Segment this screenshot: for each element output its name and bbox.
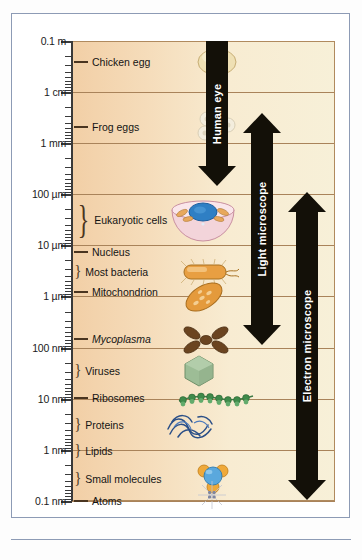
- scale-item: }Viruses: [74, 362, 120, 379]
- range-arrow-label: Human eye: [211, 83, 223, 144]
- minor-tick: [65, 209, 72, 210]
- scale-item-label: Atoms: [92, 495, 122, 507]
- minor-tick: [65, 391, 72, 392]
- minor-tick: [65, 237, 72, 238]
- range-arrow-label: Light microscope: [256, 182, 268, 277]
- leader-dash: [74, 126, 88, 128]
- scale-tick-label: 1 cm: [44, 86, 66, 98]
- scale-tick-label: 0.1 nm: [35, 495, 66, 507]
- leader-dash: [74, 291, 88, 293]
- leader-dash: [74, 61, 88, 63]
- minor-tick: [65, 218, 72, 219]
- scale-tick-label: 0.1 m: [41, 35, 66, 47]
- minor-tick: [65, 138, 72, 139]
- minor-tick: [65, 442, 72, 443]
- eukaryotic-cell-illustration: [170, 198, 236, 246]
- scale-item-label: Most bacteria: [85, 265, 148, 277]
- minor-tick: [65, 174, 72, 175]
- scale-item-label: Ribosomes: [92, 392, 145, 404]
- scale-item: Mitochondrion: [74, 286, 158, 298]
- minor-tick: [65, 72, 72, 73]
- minor-tick: [65, 87, 72, 88]
- mitochondrion-illustration: [180, 279, 228, 315]
- minor-tick: [65, 141, 72, 142]
- scale-tick-label: 100 nm: [32, 342, 66, 354]
- scale-tick-label: 10 µm: [38, 239, 66, 251]
- range-brace-tall: }: [78, 200, 90, 240]
- minor-tick: [65, 281, 72, 282]
- minor-tick: [65, 321, 72, 322]
- minor-tick: [65, 336, 72, 337]
- minor-tick: [65, 493, 72, 494]
- minor-tick: [65, 414, 72, 415]
- minor-tick: [65, 388, 72, 389]
- minor-tick: [65, 394, 72, 395]
- minor-tick: [65, 186, 72, 187]
- scale-item: Nucleus: [74, 246, 130, 258]
- scale-item-label: Small molecules: [85, 472, 161, 484]
- virus-illustration: [182, 354, 216, 388]
- minor-tick: [65, 474, 72, 475]
- minor-tick: [65, 430, 72, 431]
- scale-item-label: Mitochondrion: [92, 286, 158, 298]
- range-brace: }: [75, 362, 82, 379]
- minor-tick: [65, 327, 72, 328]
- minor-tick: [65, 486, 72, 487]
- minor-tick: [65, 128, 72, 129]
- scale-tick-label: 1 µm: [43, 290, 66, 302]
- scale-item: }Eukaryotic cells: [74, 200, 167, 240]
- arrow-head-up: [288, 192, 326, 212]
- minor-tick: [65, 340, 72, 341]
- minor-tick: [65, 234, 72, 235]
- minor-tick: [65, 465, 72, 466]
- scale-item-label: Lipids: [85, 444, 112, 456]
- scale-item-label: Nucleus: [92, 246, 130, 258]
- minor-tick: [65, 56, 72, 57]
- arrow-head-down: [288, 480, 326, 500]
- minor-tick: [65, 332, 72, 333]
- minor-tick: [65, 107, 72, 108]
- minor-tick: [65, 158, 72, 159]
- scale-item: }Small molecules: [74, 470, 162, 487]
- scale-item: }Lipids: [74, 442, 113, 459]
- minor-tick: [65, 260, 72, 261]
- scale-tick-label: 1 nm: [43, 444, 66, 456]
- minor-tick: [65, 363, 72, 364]
- minor-tick: [65, 123, 72, 124]
- minor-tick: [65, 230, 72, 231]
- range-brace: }: [75, 470, 82, 487]
- range-arrow: Electron microscope: [288, 192, 326, 500]
- scale-item: }Most bacteria: [74, 263, 148, 280]
- range-brace: }: [75, 442, 82, 459]
- minor-tick: [65, 285, 72, 286]
- ribosomes-illustration: [176, 388, 256, 410]
- minor-tick: [65, 189, 72, 190]
- scale-item: Atoms: [74, 495, 122, 507]
- minor-tick: [65, 90, 72, 91]
- scale-item: Mycoplasma: [74, 333, 151, 345]
- minor-tick: [65, 179, 72, 180]
- scale-item: Ribosomes: [74, 392, 145, 404]
- minor-tick: [65, 116, 72, 117]
- minor-tick: [65, 288, 72, 289]
- range-arrow-label: Electron microscope: [301, 290, 313, 403]
- minor-tick: [65, 192, 72, 193]
- leader-dash: [74, 251, 88, 253]
- minor-tick: [65, 84, 72, 85]
- minor-tick: [65, 379, 72, 380]
- range-brace: }: [75, 263, 82, 280]
- minor-tick: [65, 225, 72, 226]
- minor-tick: [65, 132, 72, 133]
- scale-axis: [71, 41, 73, 501]
- minor-tick: [65, 65, 72, 66]
- scale-item: Frog eggs: [74, 121, 139, 133]
- minor-tick: [65, 183, 72, 184]
- scale-item: }Proteins: [74, 416, 124, 433]
- minor-tick: [65, 423, 72, 424]
- minor-tick: [65, 372, 72, 373]
- protein-illustration: [164, 409, 218, 443]
- scale-item-label: Viruses: [85, 364, 120, 376]
- scale-item-label: Proteins: [85, 418, 124, 430]
- minor-tick: [65, 276, 72, 277]
- minor-tick: [65, 81, 72, 82]
